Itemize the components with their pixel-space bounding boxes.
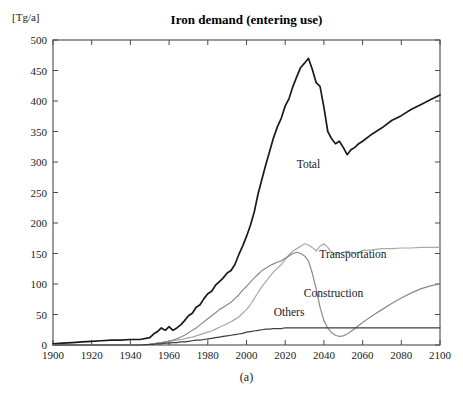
x-tick-label: 2060	[352, 349, 375, 361]
series-label-others: Others	[274, 306, 305, 318]
y-tick-label: 300	[31, 156, 48, 168]
series-line-total	[53, 58, 440, 343]
series-lines	[53, 58, 440, 345]
series-annotations: TotalTransportationConstructionOthers	[274, 158, 387, 318]
y-tick-label: 200	[31, 217, 48, 229]
x-axis-ticks: 1900192019401960198020002020204020602080…	[42, 40, 452, 361]
series-label-total: Total	[297, 158, 320, 170]
x-tick-label: 1920	[81, 349, 104, 361]
y-tick-label: 50	[36, 309, 48, 321]
x-tick-label: 2080	[390, 349, 413, 361]
x-tick-label: 1960	[158, 349, 181, 361]
x-tick-label: 2040	[313, 349, 336, 361]
y-tick-label: 350	[31, 126, 48, 138]
y-axis-ticks: 050100150200250300350400450500	[31, 34, 441, 351]
x-tick-label: 2020	[274, 349, 297, 361]
y-tick-label: 500	[31, 34, 48, 46]
figure-container: [Tg/a] Iron demand (entering use) (a) 19…	[0, 0, 463, 400]
y-tick-label: 100	[31, 278, 48, 290]
plot-frame	[53, 40, 440, 345]
y-tick-label: 0	[42, 339, 48, 351]
y-tick-label: 400	[31, 95, 48, 107]
y-tick-label: 450	[31, 65, 48, 77]
x-tick-label: 2100	[429, 349, 452, 361]
y-tick-label: 250	[31, 187, 48, 199]
x-tick-label: 2000	[236, 349, 259, 361]
line-chart-plot: 1900192019401960198020002020204020602080…	[0, 0, 463, 400]
series-label-construction: Construction	[304, 287, 364, 299]
y-tick-label: 150	[31, 248, 48, 260]
series-line-construction	[53, 252, 440, 345]
x-tick-label: 1940	[119, 349, 142, 361]
x-tick-label: 1980	[197, 349, 220, 361]
series-label-transportation: Transportation	[319, 248, 387, 261]
